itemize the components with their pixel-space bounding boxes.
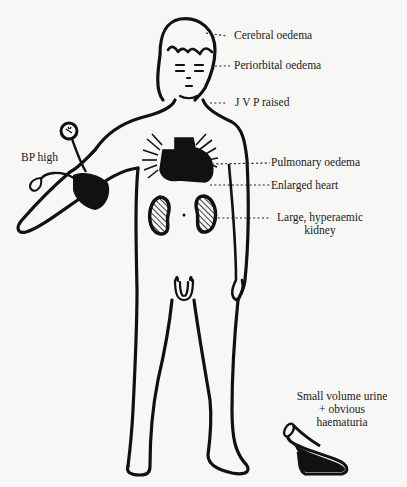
torso-left-side xyxy=(128,168,138,466)
leader-pulmonary xyxy=(212,163,270,164)
torso-left xyxy=(70,100,175,172)
right-arm xyxy=(229,165,243,300)
leader-cerebral xyxy=(206,33,227,36)
label-urine-line3: haematuria xyxy=(287,416,397,429)
label-jvp-raised: J V P raised xyxy=(235,96,289,109)
hair-icon xyxy=(168,47,212,54)
label-kidney-line1: Large, hyperaemic xyxy=(272,211,368,224)
urine-bottle-icon xyxy=(282,422,347,474)
right-eye-icon xyxy=(195,65,203,71)
label-urine-line1: Small volume urine xyxy=(287,390,397,403)
label-urine-line2: + obvious xyxy=(287,403,397,416)
label-urine: Small volume urine + obvious haematuria xyxy=(287,390,397,429)
navel-icon xyxy=(183,214,186,217)
label-pulmonary-oedema: Pulmonary oedema xyxy=(271,156,360,169)
right-kidney-icon xyxy=(196,196,215,232)
right-leg-inner xyxy=(194,300,248,474)
label-bp-high: BP high xyxy=(21,151,58,164)
head-outline xyxy=(158,19,215,100)
label-kidney: Large, hyperaemic kidney xyxy=(272,211,368,237)
bp-bulb-icon xyxy=(30,178,41,191)
label-kidney-line2: kidney xyxy=(272,224,368,237)
label-enlarged-heart: Enlarged heart xyxy=(271,179,338,192)
genitals-icon xyxy=(175,277,193,300)
label-periorbital-oedema: Periorbital oedema xyxy=(234,59,321,72)
label-cerebral-oedema: Cerebral oedema xyxy=(234,29,312,42)
left-eye-icon xyxy=(176,65,184,71)
left-kidney-icon xyxy=(150,197,169,234)
chin-line xyxy=(180,96,197,98)
heart-icon xyxy=(142,134,218,182)
